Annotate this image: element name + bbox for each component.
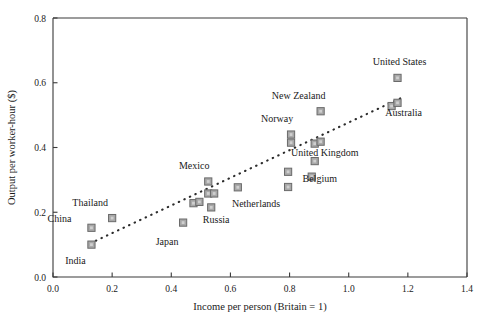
- x-tick-label: 0.2: [106, 284, 118, 294]
- data-point-marker-center: [213, 192, 216, 195]
- data-point-marker-center: [319, 140, 322, 143]
- data-point-label: United States: [373, 56, 427, 67]
- data-point-marker-center: [111, 217, 114, 220]
- data-point-marker-center: [287, 170, 290, 173]
- y-tick-label: 0.6: [34, 78, 46, 88]
- x-tick-label: 1.0: [343, 284, 355, 294]
- data-point-marker-center: [90, 243, 93, 246]
- data-point-label: Norway: [261, 113, 293, 124]
- data-point-marker-center: [319, 110, 322, 113]
- trend-line: [96, 98, 401, 240]
- data-point-marker-center: [236, 186, 239, 189]
- x-axis-title: Income per person (Britain = 1): [193, 301, 327, 313]
- data-point-marker-center: [192, 202, 195, 205]
- x-tick-label: 0.4: [165, 284, 177, 294]
- data-point-marker-center: [313, 142, 316, 145]
- data-point-marker-center: [207, 180, 210, 183]
- data-point-label: Netherlands: [232, 198, 280, 209]
- data-point-label: Belgium: [303, 173, 338, 184]
- data-point-marker-center: [396, 76, 399, 79]
- data-point-marker-center: [90, 226, 93, 229]
- y-tick-label: 0.2: [34, 208, 46, 218]
- data-point-marker-center: [396, 101, 399, 104]
- data-point-label: New Zealand: [272, 90, 326, 101]
- data-point-marker-center: [207, 192, 210, 195]
- data-point-label: Mexico: [179, 160, 210, 171]
- data-point-label: Thailand: [72, 197, 108, 208]
- point-labels-group: IndiaChinaThailandJapanMexicoRussiaNethe…: [47, 56, 426, 266]
- plot-canvas: 0.00.20.40.60.81.01.21.40.00.20.40.60.8 …: [0, 0, 490, 327]
- data-point-label: Russia: [203, 214, 230, 225]
- data-point-marker-center: [198, 200, 201, 203]
- data-point-label: United Kingdom: [291, 147, 359, 158]
- y-tick-label: 0.4: [34, 143, 46, 153]
- y-tick-label: 0.0: [34, 273, 46, 283]
- data-point-marker-center: [313, 160, 316, 163]
- x-tick-label: 0.8: [284, 284, 296, 294]
- data-point-label: Japan: [156, 236, 179, 247]
- data-point-marker-center: [182, 221, 185, 224]
- data-point-marker-center: [287, 186, 290, 189]
- x-tick-label: 0.6: [224, 284, 236, 294]
- y-tick-label: 0.8: [34, 14, 46, 24]
- data-point-marker-center: [290, 141, 293, 144]
- trendline-group: [96, 98, 401, 240]
- y-axis-title: Output per worker-hour ($): [6, 90, 18, 205]
- data-point-marker-center: [290, 133, 293, 136]
- data-point-label: China: [47, 213, 71, 224]
- data-point-marker-center: [210, 206, 213, 209]
- x-tick-label: 1.2: [402, 284, 414, 294]
- data-point-label: India: [65, 255, 86, 266]
- data-point-label: Australia: [385, 107, 422, 118]
- x-tick-label: 0.0: [47, 284, 59, 294]
- scatter-chart-figure: 0.00.20.40.60.81.01.21.40.00.20.40.60.8 …: [0, 0, 490, 327]
- x-tick-label: 1.4: [461, 284, 473, 294]
